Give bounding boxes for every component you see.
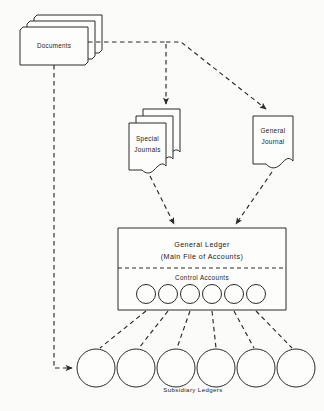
- control-accounts-label: Control Accounts: [175, 274, 229, 281]
- subsidiary-ledger-circle-2[interactable]: [117, 349, 155, 387]
- connector-general-journal-to-general-ledger: [236, 172, 272, 224]
- documents-label: Documents: [37, 42, 71, 49]
- control-account-circle-1[interactable]: [137, 285, 156, 304]
- general-journal-label-line2: Journal: [261, 138, 284, 145]
- subsidiary-ledger-circle-4[interactable]: [197, 349, 235, 387]
- connector-documents-to-subsidiary-ledgers: [54, 65, 72, 368]
- node-documents[interactable]: Documents: [20, 15, 102, 65]
- general-ledger-label-line2: (Main File of Accounts): [161, 253, 244, 261]
- general-journal-label-line1: General: [261, 127, 286, 134]
- subsidiary-ledger-circle-1[interactable]: [77, 349, 115, 387]
- control-account-circle-3[interactable]: [181, 285, 200, 304]
- connector-documents-to-general-journal: [166, 42, 266, 109]
- subsidiary-ledgers-label: Subsidiary Ledgers: [163, 386, 222, 393]
- subsidiary-ledger-circle-6[interactable]: [277, 349, 315, 387]
- control-account-circle-2[interactable]: [159, 285, 178, 304]
- flow-diagram: Documents Special Journals General Journ…: [0, 0, 324, 411]
- fan-line-3: [177, 311, 190, 348]
- connector-special-journals-to-general-ledger: [150, 176, 174, 224]
- node-special-journals[interactable]: Special Journals: [129, 109, 180, 173]
- fan-line-5: [234, 311, 254, 348]
- special-journals-label-line2: Journals: [134, 146, 161, 153]
- fan-line-4: [212, 311, 216, 348]
- general-ledger-label-line1: General Ledger: [174, 241, 230, 249]
- fan-line-6: [256, 311, 292, 348]
- node-general-journal[interactable]: General Journal: [253, 116, 293, 168]
- connector-control-accounts-to-subsidiary-ledgers: [100, 311, 292, 348]
- node-general-ledger[interactable]: General Ledger (Main File of Accounts) C…: [118, 228, 286, 310]
- subsidiary-ledger-circle-3[interactable]: [157, 349, 195, 387]
- node-subsidiary-ledgers[interactable]: Subsidiary Ledgers: [77, 349, 315, 393]
- special-journals-label-line1: Special: [136, 135, 159, 143]
- diagram-canvas: Documents Special Journals General Journ…: [0, 0, 324, 411]
- fan-line-1: [100, 311, 146, 348]
- fan-line-2: [139, 311, 168, 348]
- control-account-circle-4[interactable]: [203, 285, 222, 304]
- subsidiary-ledger-circle-5[interactable]: [237, 349, 275, 387]
- control-account-circle-6[interactable]: [247, 285, 266, 304]
- control-account-circle-5[interactable]: [225, 285, 244, 304]
